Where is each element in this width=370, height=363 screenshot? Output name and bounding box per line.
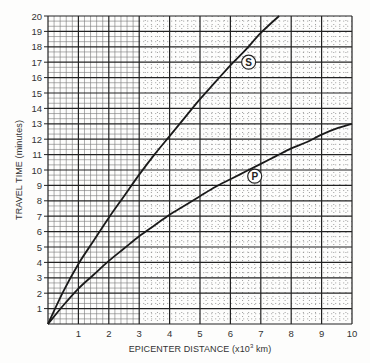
s-wave-label: S	[242, 55, 256, 69]
x-tick-label: 10	[347, 328, 358, 339]
travel-time-chart: 1234567891011121314151617181920 12345678…	[0, 0, 370, 363]
y-axis-label: TRAVEL TIME (minutes)	[14, 120, 24, 220]
x-tick-label: 2	[106, 328, 111, 339]
y-tick-label: 12	[31, 134, 42, 145]
x-tick-label: 7	[258, 328, 263, 339]
x-tick-label: 1	[76, 328, 81, 339]
y-tick-label: 19	[31, 26, 42, 37]
y-tick-label: 16	[31, 72, 42, 83]
y-tick-label: 11	[32, 149, 42, 160]
y-axis-ticks: 1234567891011121314151617181920	[31, 11, 48, 315]
y-tick-label: 18	[31, 41, 42, 52]
y-tick-label: 9	[37, 180, 42, 191]
svg-text:P: P	[251, 171, 258, 182]
svg-text:S: S	[245, 57, 252, 68]
x-axis-label: EPICENTER DISTANCE (x103 km)	[129, 343, 272, 354]
y-tick-label: 3	[37, 272, 42, 283]
x-tick-label: 3	[137, 328, 142, 339]
y-tick-label: 5	[37, 242, 42, 253]
y-tick-label: 7	[37, 211, 42, 222]
y-tick-label: 4	[37, 257, 42, 268]
y-tick-label: 6	[37, 226, 42, 237]
y-tick-label: 10	[31, 165, 42, 176]
y-tick-label: 2	[37, 288, 42, 299]
p-wave-label: P	[248, 169, 262, 183]
y-tick-label: 20	[31, 11, 42, 22]
x-axis-ticks: 12345678910	[76, 328, 358, 339]
y-tick-label: 14	[31, 103, 42, 114]
x-tick-label: 5	[197, 328, 202, 339]
y-tick-label: 17	[31, 57, 42, 68]
grid-major	[48, 16, 352, 324]
x-tick-label: 6	[228, 328, 233, 339]
x-tick-label: 8	[289, 328, 294, 339]
y-tick-label: 1	[37, 303, 42, 314]
x-tick-label: 4	[167, 328, 172, 339]
y-tick-label: 15	[31, 88, 42, 99]
y-tick-label: 8	[37, 195, 42, 206]
y-tick-label: 13	[31, 118, 42, 129]
x-tick-label: 9	[319, 328, 324, 339]
